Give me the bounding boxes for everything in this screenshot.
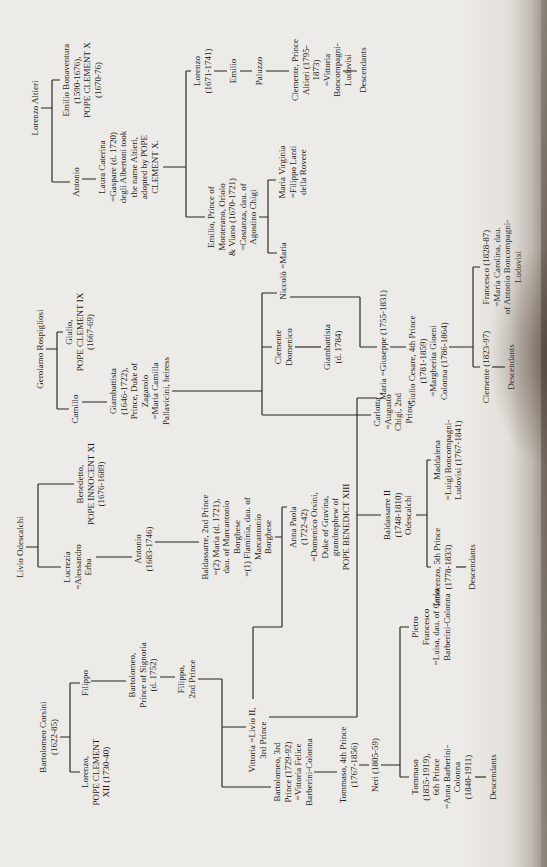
tree-connector xyxy=(416,460,431,567)
person-clemente-domenico: Clemente Domenico xyxy=(273,328,294,366)
person-benedetto-innocent-xi: Benedetto, POPE INNOCENT XI (1676-1689) xyxy=(75,443,107,525)
tree-connector xyxy=(381,627,409,777)
scanned-page: Bartolomeo Corsini (1622-85)FilippoLoren… xyxy=(0,0,547,867)
person-giambattista-zagarolo: Giambattista (1646-1722), Prince, Duke o… xyxy=(108,357,171,425)
person-anna-paola: Anna Paola (1722-42) =Domenico Orsini, D… xyxy=(288,484,351,570)
person-lucrezia: Lucrezia =Alessandro Erba xyxy=(62,544,94,590)
person-baldassarre-ii: Baldassarre II (1748-1810) Odescalchi xyxy=(382,490,414,540)
person-antonio-altieri: Antonio xyxy=(71,167,82,197)
person-vittoria-livio-ii: Vittoria =Livio II, 3rd Prince xyxy=(247,708,268,773)
person-laura-caterina: Laura Caterina =Gaspare (d. 1720) degli … xyxy=(97,131,160,204)
person-emilio-monterano: Emilio, Prince of Monterano, Oriolo & Vi… xyxy=(206,178,259,256)
person-paluzzo: Paluzzo xyxy=(254,57,265,86)
person-filippo-2nd: Filippo, 2nd Prince xyxy=(176,660,197,699)
person-innocenzo-5th: Innocenzo, 5th Prince (1778-1833) xyxy=(432,528,453,607)
person-tommaso-6th: Tommaso (1835-1919), 6th Prince =Anna Ba… xyxy=(410,745,473,809)
person-clemente-prince-altieri: Clemente, Prince Altieri (1795-1873) =Vi… xyxy=(290,35,353,105)
person-lorenzo-clement-xii: Lorenzo, POPE CLEMENT XII (1730-40) xyxy=(80,739,112,806)
person-filippo-i: Filippo xyxy=(80,670,91,696)
person-altieri-descendants: Descendants xyxy=(358,47,369,92)
person-maria-giuseppe: Maria =Giuseppe (1755-1831) xyxy=(378,290,389,400)
person-camillo: Camillo xyxy=(70,395,81,424)
person-maria-virginia: Maria Virginia =Filippo Lanti della Rove… xyxy=(277,146,309,199)
person-altieri-head: Lorenzo Altieri xyxy=(30,80,41,135)
person-giambattista-1784: Giambattista (d. 1784) xyxy=(322,324,343,370)
person-corsini-descendants: Descendants xyxy=(488,754,499,799)
connector-lines xyxy=(0,0,547,867)
person-corsini-head: Bartolomeo Corsini (1622-85) xyxy=(38,701,59,772)
person-tommaso-4th: Tommaso, 4th Prince (1767-1856) xyxy=(338,727,359,804)
person-maddalena: Maddalena =Luigi Boncompagni- Ludovisi (… xyxy=(432,420,464,500)
person-giulio-clement-ix: Giulio, POPE CLEMENT IX (1667-69) xyxy=(64,293,96,371)
tree-connector xyxy=(259,180,277,253)
person-baldassarre-2nd: Baldassarre, 2nd Prince =(2) Maria (d. 1… xyxy=(200,494,274,579)
person-francesco-1828: Francesco (1828-87) =Maria Carolina, dau… xyxy=(481,220,523,315)
person-lorenzo-1671: Lorenzo (1671-1741) xyxy=(192,49,213,94)
person-antonio-odescalchi: Antonio (1683-1746) xyxy=(133,527,154,572)
person-clemente-1823: Clemente (1823-97) xyxy=(481,331,492,404)
person-bartolomeo-signoria: Bartolomeo, Prince of Signoria (d. 1752) xyxy=(127,642,159,708)
person-rospigliosi-descendants: Descendants xyxy=(506,344,517,389)
tree-connector xyxy=(60,683,80,772)
person-emilio-altieri: Emilio xyxy=(228,59,239,84)
person-odescalchi-head: Livio Odescalchi xyxy=(15,516,26,578)
person-rospigliosi-head: Gerolamo Rospigliosi xyxy=(35,309,46,388)
person-neri: Neri (1805-59) xyxy=(370,738,381,792)
person-niccolo-maria: Niccolò =Maria xyxy=(278,242,289,299)
person-odescalchi-descendants: Descendants xyxy=(467,544,478,589)
person-emilio-bonaventura: Emilio Bonaventura (1590-1676), POPE CLE… xyxy=(61,42,103,117)
person-giulio-cesare-4th: Giulio Cesare, 4th Prince (1781-1859) =M… xyxy=(407,316,449,407)
genealogy-chart: Bartolomeo Corsini (1622-85)FilippoLoren… xyxy=(0,0,547,867)
person-bartolomeo-3rd: Bartolomeo, 3rd Prince (1729-92) =Vittor… xyxy=(272,738,314,805)
